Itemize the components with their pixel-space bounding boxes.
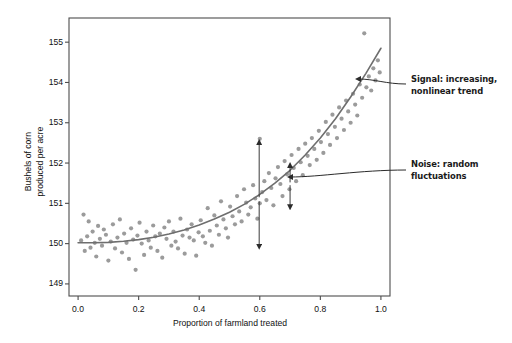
data-point	[376, 58, 380, 62]
data-point	[319, 140, 323, 144]
data-point	[271, 203, 275, 207]
data-point	[353, 103, 357, 107]
data-point	[102, 227, 106, 231]
y-tick-label: 153	[41, 117, 63, 127]
data-point	[83, 249, 87, 253]
data-point	[100, 244, 104, 248]
data-point	[206, 206, 210, 210]
data-point	[155, 249, 159, 253]
data-point	[287, 187, 291, 191]
data-point	[258, 137, 262, 141]
annotation-line: fluctuations	[411, 171, 478, 183]
data-point	[328, 143, 332, 147]
data-point	[235, 194, 239, 198]
data-point	[226, 235, 230, 239]
data-point	[224, 226, 228, 230]
data-point	[371, 66, 375, 70]
data-point	[324, 120, 328, 124]
data-point	[210, 244, 214, 248]
data-point	[335, 136, 339, 140]
data-point	[221, 217, 225, 221]
data-point	[294, 179, 298, 183]
plot-frame	[69, 18, 390, 296]
data-point	[106, 258, 110, 262]
data-point	[362, 31, 366, 35]
data-point	[242, 187, 246, 191]
data-point	[174, 240, 178, 244]
data-point	[81, 213, 85, 217]
data-point	[283, 159, 287, 163]
data-point	[262, 179, 266, 183]
data-point	[249, 205, 253, 209]
data-point	[303, 142, 307, 146]
x-tick-label: 1.0	[367, 304, 395, 314]
data-point	[264, 198, 268, 202]
data-point	[339, 117, 343, 121]
data-point	[190, 222, 194, 226]
y-tick-label: 151	[41, 198, 63, 208]
data-point	[113, 246, 117, 250]
data-point	[115, 235, 119, 239]
data-point	[85, 234, 89, 238]
x-tick-label: 0.8	[306, 304, 334, 314]
annotation-leader-signal	[358, 79, 406, 84]
x-tick-label: 0.2	[125, 304, 153, 314]
data-point	[144, 229, 148, 233]
data-point	[122, 231, 126, 235]
data-point	[364, 85, 368, 89]
data-point	[187, 235, 191, 239]
data-point	[369, 88, 373, 92]
annotation-signal: Signal: increasing,nonlinear trend	[411, 74, 497, 97]
data-point	[212, 213, 216, 217]
data-point	[169, 244, 173, 248]
data-point	[104, 233, 108, 237]
data-point	[321, 151, 325, 155]
trend-line	[78, 48, 381, 243]
data-point	[120, 250, 124, 254]
data-point	[129, 226, 133, 230]
data-point	[326, 132, 330, 136]
data-point	[278, 182, 282, 186]
data-point	[273, 176, 277, 180]
data-point	[208, 229, 212, 233]
data-point	[346, 109, 350, 113]
data-point	[167, 219, 171, 223]
data-point	[197, 230, 201, 234]
data-point	[228, 204, 232, 208]
annotation-line: Signal: increasing,	[411, 74, 497, 86]
data-point	[194, 254, 198, 258]
data-point	[315, 158, 319, 162]
x-tick-label: 0.4	[185, 304, 213, 314]
data-point	[178, 217, 182, 221]
data-point	[135, 233, 139, 237]
data-point	[151, 223, 155, 227]
y-tick-label: 150	[41, 238, 63, 248]
data-point	[164, 237, 168, 241]
data-point	[215, 223, 219, 227]
y-axis-label-line: Bushels of corn	[23, 72, 35, 252]
data-point	[180, 233, 184, 237]
data-point	[296, 147, 300, 151]
data-point	[337, 105, 341, 109]
data-point	[96, 224, 100, 228]
data-point	[237, 209, 241, 213]
data-point	[267, 171, 271, 175]
data-point	[251, 183, 255, 187]
data-point	[162, 225, 166, 229]
data-point	[333, 125, 337, 129]
data-point	[349, 121, 353, 125]
data-point	[246, 213, 250, 217]
data-point	[183, 252, 187, 256]
y-tick-label: 154	[41, 77, 63, 87]
annotation-line: nonlinear trend	[411, 86, 497, 98]
x-axis-label: Proportion of farmland treated	[0, 318, 460, 328]
data-point	[137, 221, 141, 225]
data-point	[219, 199, 223, 203]
annotation-line: Noise: random	[411, 159, 478, 171]
annotation-noise: Noise: randomfluctuations	[411, 159, 478, 182]
data-point	[134, 268, 138, 272]
data-point	[88, 246, 92, 250]
data-point	[310, 136, 314, 140]
data-point	[308, 163, 312, 167]
data-point	[240, 219, 244, 223]
